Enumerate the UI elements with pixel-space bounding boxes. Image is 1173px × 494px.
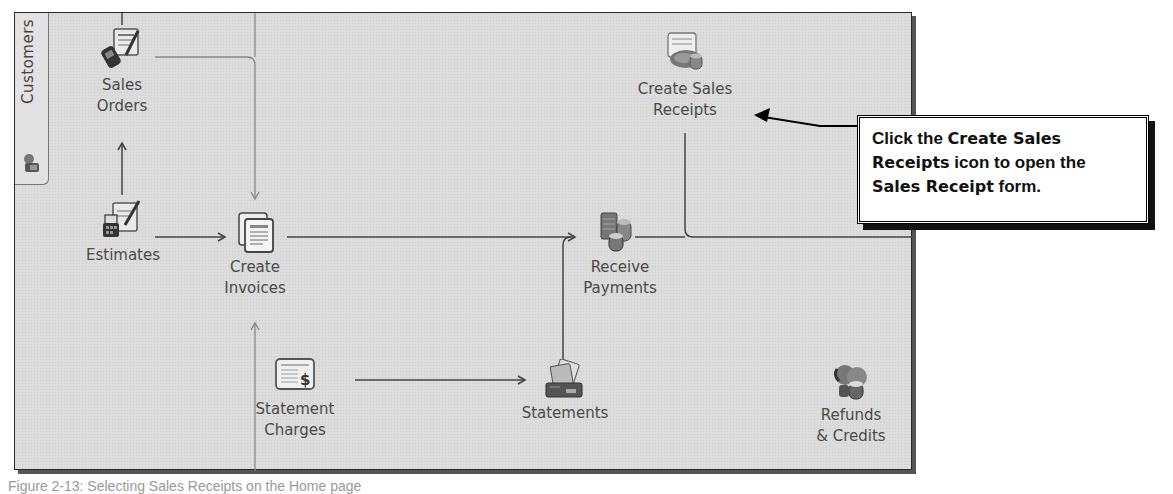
figure-caption: Figure 2-13: Selecting Sales Receipts on… (8, 478, 361, 494)
svg-text:$: $ (300, 371, 310, 389)
create-sales-receipts-label: Create Sales Receipts (615, 79, 755, 121)
statements-button[interactable]: Statements (510, 359, 620, 424)
customers-tab[interactable]: Customers (15, 13, 49, 185)
receive-payments-icon (595, 209, 645, 255)
callout-text-3: form. (994, 177, 1041, 196)
statements-icon (542, 359, 588, 401)
estimates-icon (101, 197, 145, 241)
create-sales-receipts-icon (662, 29, 708, 73)
customers-tab-label: Customers (19, 19, 37, 139)
sales-orders-icon (100, 25, 144, 71)
refunds-credits-label: Refunds & Credits (803, 405, 899, 447)
customers-workflow-panel: Customers Sales Orders (14, 12, 912, 470)
receive-payments-label: Receive Payments (570, 257, 670, 299)
refunds-credits-icon (829, 359, 873, 403)
statements-label: Statements (510, 403, 620, 424)
create-invoices-button[interactable]: Create Invoices (210, 211, 300, 299)
receive-payments-button[interactable]: Receive Payments (570, 209, 670, 299)
instruction-callout: Click the Create Sales Receipts icon to … (857, 115, 1149, 224)
sales-orders-label: Sales Orders (77, 75, 167, 117)
callout-emphasis-sales-receipt: Sales Receipt (872, 177, 994, 196)
sales-orders-button[interactable]: Sales Orders (77, 25, 167, 117)
estimates-label: Estimates (75, 245, 171, 266)
create-invoices-label: Create Invoices (210, 257, 300, 299)
estimates-button[interactable]: Estimates (75, 197, 171, 266)
statement-charges-icon: $ (272, 355, 318, 395)
callout-pointer-arrow (740, 100, 860, 140)
callout-text-1: Click the (872, 129, 948, 148)
customers-icon (21, 151, 41, 173)
statement-charges-button[interactable]: $ Statement Charges (245, 355, 345, 441)
create-sales-receipts-button[interactable]: Create Sales Receipts (615, 29, 755, 121)
refunds-credits-button[interactable]: Refunds & Credits (803, 359, 899, 447)
statement-charges-label: Statement Charges (245, 399, 345, 441)
callout-text-2: icon to open the (950, 153, 1086, 172)
create-invoices-icon (233, 211, 277, 255)
